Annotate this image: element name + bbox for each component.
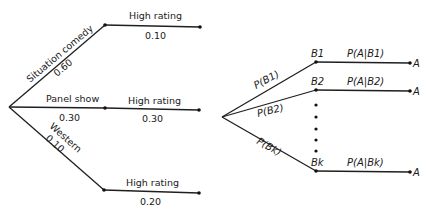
ellipsis-dots	[314, 103, 317, 152]
node-B1	[314, 60, 318, 64]
right-probability-tree: P(B1) P(B2) P(Bk) B1 B2 Bk P(A|B1) P(A|B…	[222, 48, 420, 178]
condprob-western: 0.20	[140, 196, 161, 207]
node-Bk-A	[408, 170, 412, 174]
edge-Bk-A	[316, 171, 410, 172]
tree-diagrams: Situation comedy 0.60 Panel show 0.30 We…	[0, 0, 428, 214]
outcome-western: High rating	[126, 177, 179, 188]
edge-B2-A	[316, 90, 410, 91]
cond-label-B1: P(A|B1)	[347, 48, 384, 60]
node-label-Bk: Bk	[311, 157, 325, 168]
node-panel	[103, 106, 107, 110]
edge-B1-A	[316, 62, 410, 63]
node-label-B1: B1	[311, 48, 324, 59]
edge-sitcom-high	[105, 25, 200, 27]
edge-label-B2: P(B2)	[256, 102, 285, 119]
condprob-panel: 0.30	[142, 113, 163, 124]
edge-panel-high	[105, 108, 199, 110]
cond-label-B2: P(A|B2)	[347, 76, 384, 88]
end-label-A2: A	[412, 86, 420, 97]
left-probability-tree: Situation comedy 0.60 Panel show 0.30 We…	[9, 10, 202, 207]
edge-western-high	[104, 190, 199, 193]
node-Bk	[314, 169, 318, 173]
edge-label-B1: P(B1)	[252, 68, 281, 90]
end-label-A1: A	[412, 58, 420, 69]
node-B2-A	[408, 89, 412, 93]
node-label-B2: B2	[311, 76, 324, 87]
outcome-panel: High rating	[128, 95, 181, 106]
node-western	[102, 188, 106, 192]
node-sitcom	[103, 23, 107, 27]
label-panel: Panel show	[46, 93, 99, 104]
edge-label-Bk: P(Bk)	[255, 135, 283, 158]
node-sitcom-end	[198, 25, 202, 29]
cond-label-Bk: P(A|Bk)	[347, 157, 384, 169]
prob-panel: 0.30	[59, 112, 80, 123]
end-label-Ak: A	[412, 167, 420, 178]
node-B2	[314, 88, 318, 92]
node-B1-A	[408, 61, 412, 65]
condprob-sitcom: 0.10	[145, 30, 166, 41]
outcome-sitcom: High rating	[129, 10, 182, 21]
node-panel-end	[197, 108, 201, 112]
node-western-end	[197, 191, 201, 195]
edge-panel	[9, 107, 105, 108]
